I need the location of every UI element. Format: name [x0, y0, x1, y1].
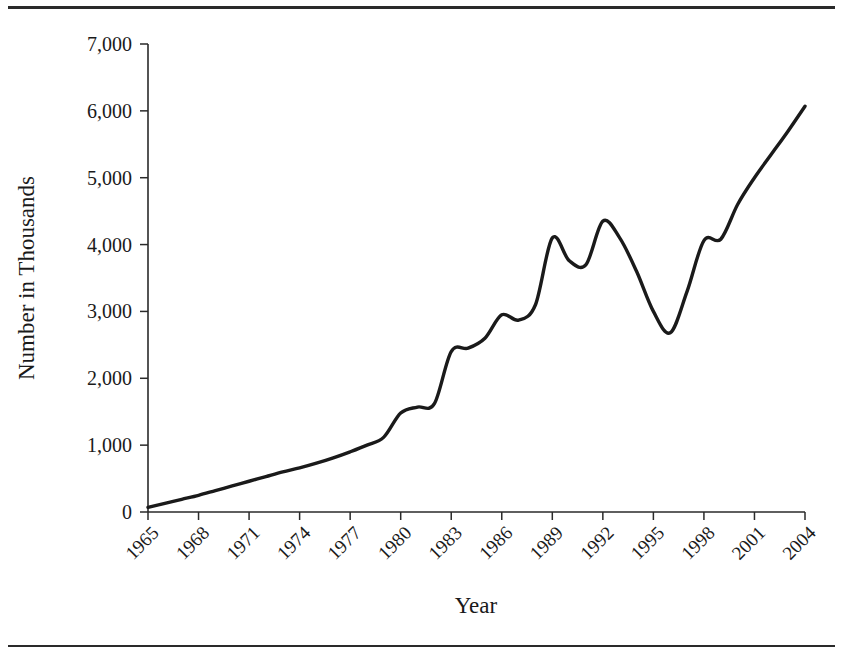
x-tick-label: 1968: [172, 522, 214, 564]
y-axis: 01,0002,0003,0004,0005,0006,0007,000: [87, 33, 148, 523]
x-tick-label: 1974: [273, 522, 315, 564]
y-tick-group: 01,0002,0003,0004,0005,0006,0007,000: [87, 33, 148, 523]
y-tick-label: 5,000: [87, 167, 132, 189]
y-tick-label: 3,000: [87, 300, 132, 322]
x-tick-group: 1965196819711974197719801983198619891992…: [121, 512, 820, 564]
y-tick-label: 4,000: [87, 234, 132, 256]
x-tick-label: 1971: [222, 522, 264, 564]
x-tick-label: 1989: [525, 522, 567, 564]
y-tick-label: 2,000: [87, 367, 132, 389]
data-series-line: [148, 106, 805, 507]
y-axis-title: Number in Thousands: [14, 176, 39, 380]
y-tick-label: 7,000: [87, 33, 132, 55]
x-tick-label: 1977: [323, 522, 365, 564]
y-tick-label: 6,000: [87, 100, 132, 122]
figure-root: 01,0002,0003,0004,0005,0006,0007,000 196…: [0, 0, 843, 661]
y-tick-label: 1,000: [87, 434, 132, 456]
x-tick-label: 1986: [475, 522, 517, 564]
x-tick-label: 1965: [121, 522, 163, 564]
x-tick-label: 1980: [374, 522, 416, 564]
y-tick-label: 0: [122, 501, 132, 523]
x-axis-title: Year: [455, 593, 498, 618]
x-tick-label: 1992: [576, 522, 618, 564]
x-tick-label: 1983: [424, 522, 466, 564]
x-tick-label: 2004: [778, 522, 820, 564]
plot-area: [148, 106, 805, 507]
x-tick-label: 1998: [677, 522, 719, 564]
line-chart: 01,0002,0003,0004,0005,0006,0007,000 196…: [0, 0, 843, 661]
x-tick-label: 1995: [626, 522, 668, 564]
x-axis: 1965196819711974197719801983198619891992…: [121, 512, 820, 564]
x-tick-label: 2001: [728, 522, 770, 564]
